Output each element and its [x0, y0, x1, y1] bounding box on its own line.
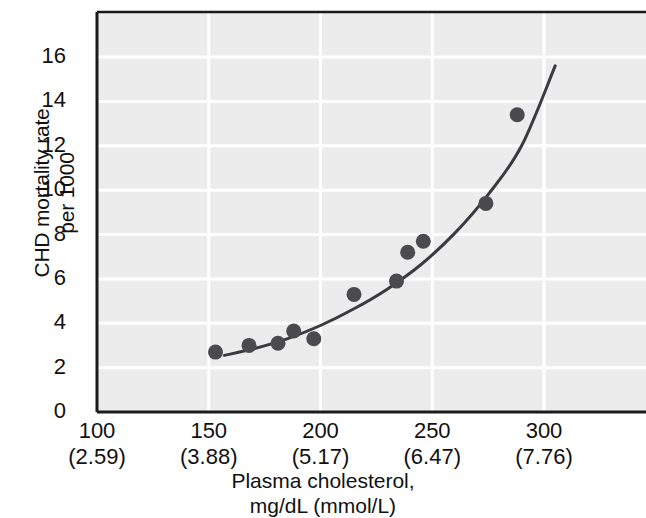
- data-point-marker: [208, 345, 223, 360]
- data-point-marker: [510, 107, 525, 122]
- x-tick-label-mgdl: 300: [484, 418, 604, 444]
- data-point-marker: [400, 245, 415, 260]
- x-tick-label-mgdl: 250: [372, 418, 492, 444]
- y-axis-tick-label: 12: [26, 134, 66, 156]
- data-point-marker: [271, 336, 286, 351]
- x-axis-tick-label: 150(3.88): [149, 418, 269, 470]
- x-axis-tick-label: 100(2.59): [37, 418, 157, 470]
- x-tick-label-mgdl: 100: [37, 418, 157, 444]
- data-point-marker: [389, 274, 404, 289]
- y-axis-tick-label: 14: [26, 89, 66, 111]
- data-point-marker: [416, 234, 431, 249]
- x-tick-label-mgdl: 150: [149, 418, 269, 444]
- x-tick-label-mmoll: (5.17): [261, 444, 381, 470]
- x-tick-label-mmoll: (2.59): [37, 444, 157, 470]
- y-axis-tick-label: 4: [26, 311, 66, 333]
- x-tick-label-mmoll: (3.88): [149, 444, 269, 470]
- data-point-marker: [242, 338, 257, 353]
- y-axis-tick-label: 6: [26, 267, 66, 289]
- x-axis-tick-label: 300(7.76): [484, 418, 604, 470]
- x-axis-title: Plasma cholesterol, mg/dL (mmol/L): [0, 468, 646, 518]
- x-axis-title-line2: mg/dL (mmol/L): [0, 493, 646, 518]
- x-axis-tick-label: 200(5.17): [261, 418, 381, 470]
- data-point-marker: [478, 196, 493, 211]
- data-point-marker: [306, 331, 321, 346]
- x-tick-label-mgdl: 200: [261, 418, 381, 444]
- x-axis-title-line1: Plasma cholesterol,: [0, 468, 646, 493]
- x-axis-tick-label: 250(6.47): [372, 418, 492, 470]
- data-point-marker: [286, 324, 301, 339]
- x-tick-label-mmoll: (7.76): [484, 444, 604, 470]
- y-axis-tick-label: 16: [26, 45, 66, 67]
- y-axis-tick-label: 10: [26, 178, 66, 200]
- y-axis-tick-label: 8: [26, 223, 66, 245]
- y-axis-tick-label: 2: [26, 356, 66, 378]
- data-point-marker: [347, 287, 362, 302]
- x-tick-label-mmoll: (6.47): [372, 444, 492, 470]
- plot-background: [97, 12, 646, 412]
